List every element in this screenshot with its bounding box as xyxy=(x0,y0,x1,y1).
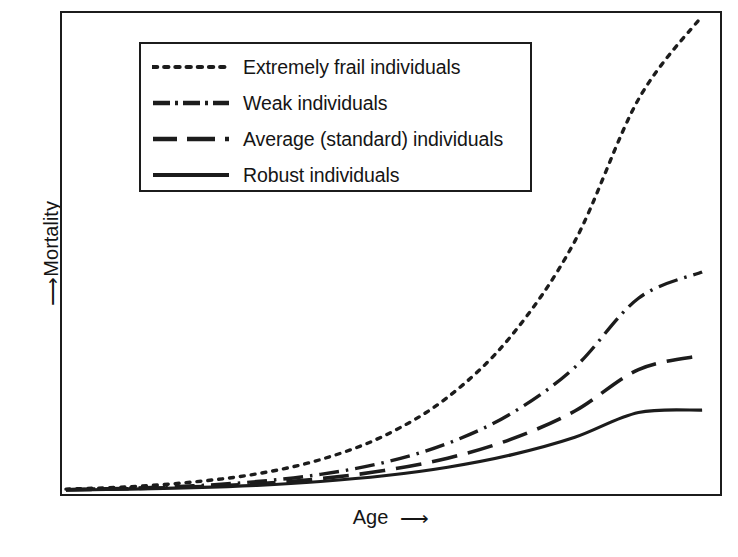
x-axis-label: Age⟶ xyxy=(60,505,722,530)
legend-label: Extremely frail individuals xyxy=(243,57,460,77)
y-axis-label-group: ⟶Mortality xyxy=(0,0,60,500)
legend-label: Average (standard) individuals xyxy=(243,129,503,149)
legend-item-extremely-frail: Extremely frail individuals xyxy=(141,49,530,85)
legend-swatch-dash-dot-icon xyxy=(152,93,230,113)
legend-item-robust: Robust individuals xyxy=(141,157,530,193)
plot-area: Extremely frail individuals Weak individ… xyxy=(60,11,722,496)
x-axis-label-text: Age xyxy=(353,506,389,528)
legend-label: Weak individuals xyxy=(243,93,387,113)
legend-item-weak: Weak individuals xyxy=(141,85,530,121)
legend: Extremely frail individuals Weak individ… xyxy=(139,42,532,192)
series-line-robust xyxy=(66,410,702,490)
legend-swatch-dotted-icon xyxy=(152,57,230,77)
legend-item-average: Average (standard) individuals xyxy=(141,121,530,157)
legend-swatch-solid-icon xyxy=(152,165,230,185)
mortality-age-figure: ⟶Mortality Extremely frail individuals xyxy=(0,0,738,557)
x-axis-arrow-icon: ⟶ xyxy=(400,506,429,530)
legend-swatch-dashed-icon xyxy=(152,129,230,149)
y-axis-label-text: Mortality xyxy=(40,201,62,277)
series-line-weak xyxy=(66,272,702,490)
legend-label: Robust individuals xyxy=(243,165,399,185)
